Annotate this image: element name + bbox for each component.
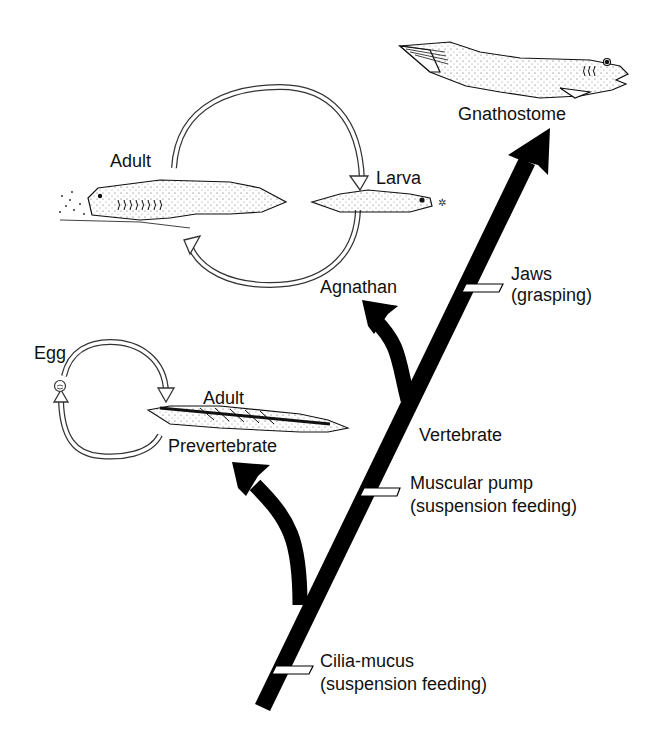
- innovation-cilia-mucus-name: Cilia-mucus: [320, 651, 414, 672]
- prevertebrate-adult-label: Adult: [203, 388, 244, 409]
- marker-jaws-icon: [462, 284, 503, 292]
- agnathan-branch: [362, 300, 408, 400]
- prevertebrate-branch: [232, 462, 300, 605]
- cycle-arrow-adult-to-larva-icon: [174, 87, 362, 180]
- agnathan-adult-label: Adult: [110, 151, 151, 172]
- agnathan-label: Agnathan: [320, 277, 397, 298]
- egg-icon: [55, 381, 66, 392]
- innovation-muscular-pump-name: Muscular pump: [410, 473, 533, 494]
- agnathan-larva-label: Larva: [376, 168, 421, 189]
- agnathan-larva-illustration: ✲: [312, 190, 446, 212]
- prevertebrate-label: Prevertebrate: [168, 436, 277, 457]
- marker-cilia-mucus-icon: [272, 666, 313, 674]
- svg-text:✲: ✲: [438, 197, 446, 208]
- innovation-jaws-detail: (grasping): [511, 285, 592, 306]
- gnathostome-fish-illustration: [400, 42, 628, 98]
- agnathan-adult-fish-illustration: [59, 180, 286, 228]
- prevertebrate-adult-illustration: [148, 406, 348, 432]
- innovation-jaws-name: Jaws: [511, 264, 552, 285]
- vertebrate-clade-label: Vertebrate: [419, 425, 502, 446]
- innovation-muscular-pump-detail: (suspension feeding): [410, 496, 577, 517]
- gnathostome-label: Gnathostome: [458, 104, 566, 125]
- innovation-cilia-mucus-detail: (suspension feeding): [320, 674, 487, 695]
- prevertebrate-egg-label: Egg: [34, 343, 66, 364]
- marker-muscular-pump-icon: [360, 488, 400, 496]
